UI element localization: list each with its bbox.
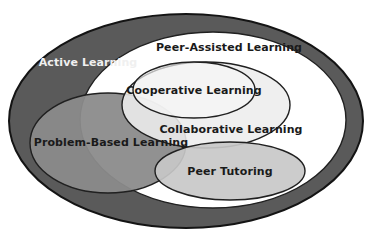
label-collaborative-learning: Collaborative Learning (159, 123, 302, 136)
euler-diagram: Active Learning Peer-Assisted Learning P… (0, 0, 371, 240)
label-peer-assisted-learning: Peer-Assisted Learning (156, 41, 302, 54)
label-active-learning: Active Learning (39, 56, 138, 69)
label-problem-based-learning: Problem-Based Learning (34, 136, 189, 149)
venn-diagram-canvas: Active Learning Peer-Assisted Learning P… (0, 0, 371, 240)
label-peer-tutoring: Peer Tutoring (187, 165, 272, 178)
label-cooperative-learning: Cooperative Learning (126, 84, 261, 97)
